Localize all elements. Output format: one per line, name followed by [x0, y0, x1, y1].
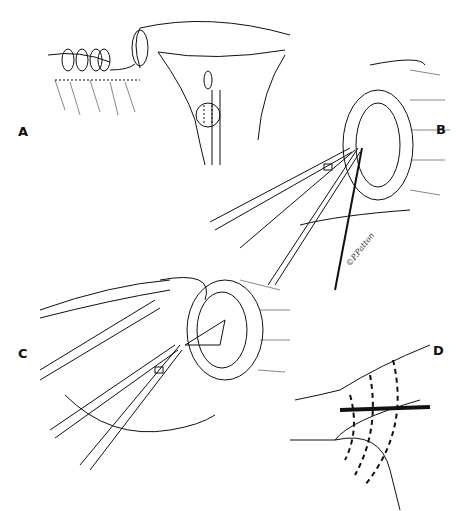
- panel-b-drawing: [210, 60, 450, 290]
- panel-label-b: B: [436, 122, 446, 137]
- panel-a-drawing: [48, 21, 290, 165]
- panel-label-c: C: [18, 346, 28, 361]
- panel-d-drawing: [290, 345, 430, 510]
- panel-label-d: D: [433, 343, 444, 358]
- panel-c-drawing: [40, 278, 290, 471]
- illustration: [0, 0, 463, 511]
- panel-label-a: A: [18, 124, 28, 139]
